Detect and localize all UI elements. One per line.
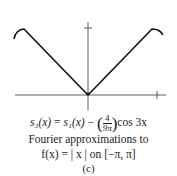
- formula-lhs: s₃(x): [30, 116, 51, 128]
- formula-tail: cos 3x: [117, 116, 147, 128]
- formula-minus: −: [88, 116, 95, 128]
- formula: s₃(x) = s₁(x) − (49π)cos 3x: [0, 114, 177, 133]
- formula-eq: =: [54, 116, 61, 128]
- figure-label: (c): [0, 161, 177, 175]
- fourier-plot: [0, 0, 177, 112]
- fraction: 49π: [103, 114, 112, 133]
- formula-term1: s₁(x): [63, 116, 84, 128]
- caption-line1: Fourier approximations to: [0, 132, 177, 146]
- origin-point: [86, 92, 89, 95]
- s3-curve: [14, 29, 163, 94]
- caption-line2: f(x) = | x | on [−π, π]: [0, 147, 177, 161]
